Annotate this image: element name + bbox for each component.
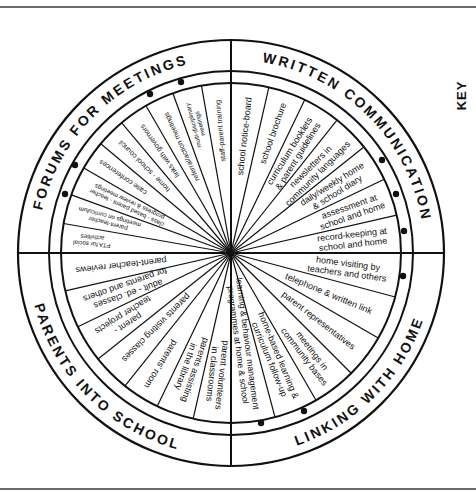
key-dot	[72, 162, 78, 168]
svg-text:parents' room: parents' room	[142, 338, 180, 390]
key-dot	[301, 408, 307, 414]
sector-label: parents' room	[142, 338, 180, 390]
key-dot	[147, 91, 153, 97]
key-dot	[379, 157, 385, 163]
center-hub	[229, 251, 234, 256]
wheel-spokes	[18, 40, 444, 466]
key-dot	[62, 191, 68, 197]
key-dot	[393, 191, 399, 197]
sector-label: PTA for socialactivities	[73, 233, 112, 250]
key-label: KEY	[454, 81, 469, 111]
sector-label: staff-parent training	[213, 100, 227, 162]
key-dot	[258, 420, 264, 426]
key-dot	[400, 273, 406, 279]
key-dot	[401, 228, 407, 234]
sector-label: home visiting byteachers and others	[307, 253, 389, 283]
svg-text:home visiting byteachers and o: home visiting byteachers and others	[307, 253, 389, 283]
svg-text:PTA for socialactivities: PTA for socialactivities	[73, 233, 112, 250]
partnership-wheel-diagram: PTA for socialactivitiesparent-teacherme…	[0, 0, 476, 491]
key-dot	[178, 79, 184, 85]
svg-text:staff-parent training: staff-parent training	[213, 100, 227, 162]
